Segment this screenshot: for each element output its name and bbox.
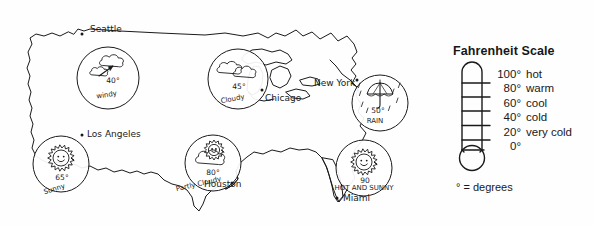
city-marker-houston[interactable]: 80°Partly CloudyHouston: [175, 135, 241, 193]
city-label: Miami: [343, 193, 370, 203]
city-label: Chicago: [265, 93, 302, 103]
city-temperature: 40°: [106, 76, 120, 85]
city-dot: [336, 197, 339, 200]
fahrenheit-legend: Fahrenheit Scale 100°hot80°warm60°cool40…: [440, 0, 594, 225]
city-dot: [81, 134, 84, 137]
city-temperature: 45°: [232, 82, 246, 91]
legend-temperature: 40°: [487, 110, 526, 124]
legend-description: very cold: [526, 125, 572, 139]
legend-temperature: 60°: [487, 96, 526, 110]
legend-row: 0°: [487, 139, 592, 153]
city-dot: [356, 79, 359, 82]
legend-description: cool: [526, 96, 547, 110]
city-label: Los Angeles: [87, 129, 141, 139]
city-marker-chicago[interactable]: 45°CloudyChicago: [208, 49, 302, 109]
city-condition: HOT AND SUNNY: [334, 184, 394, 192]
great-lakes-huron: [270, 66, 291, 88]
thermometer-tube: [462, 62, 482, 150]
legend-description: hot: [526, 67, 542, 81]
legend-degree-note: ° = degrees: [456, 181, 513, 193]
city-marker-seattle[interactable]: 40°windySeattle: [77, 24, 139, 109]
city-label: Seattle: [90, 24, 122, 34]
city-marker-new-york[interactable]: 50°RAINNew York: [314, 75, 408, 131]
city-marker-los-angeles[interactable]: 65°SunnyLos Angeles: [33, 129, 141, 196]
city-marker-miami[interactable]: 90HOT AND SUNNYMiami: [334, 140, 394, 203]
legend-row: 80°warm: [487, 81, 592, 95]
map-drawing: 40°windySeattle45°CloudyChicago50°RAINNe…: [0, 0, 440, 225]
thermometer-bulb: [460, 146, 485, 171]
city-condition: RAIN: [367, 117, 384, 125]
city-dot: [81, 33, 84, 36]
city-temperature: 65°: [55, 173, 69, 182]
city-label: New York: [314, 78, 356, 88]
legend-row: 40°cold: [487, 110, 592, 124]
legend-temperature: 80°: [487, 81, 526, 95]
legend-description: warm: [526, 81, 554, 95]
legend-temperature: 0°: [487, 139, 526, 153]
legend-temperature: 20°: [487, 125, 526, 139]
city-temperature: 50°: [371, 106, 385, 115]
legend-row: 100°hot: [487, 67, 592, 81]
weather-map-figure: 40°windySeattle45°CloudyChicago50°RAINNe…: [0, 0, 594, 225]
city-layer: 40°windySeattle45°CloudyChicago50°RAINNe…: [33, 24, 408, 203]
legend-description: cold: [526, 110, 547, 124]
legend-row-list: 100°hot80°warm60°cool40°cold20°very cold…: [487, 67, 592, 153]
us-weather-map: 40°windySeattle45°CloudyChicago50°RAINNe…: [0, 0, 440, 225]
legend-temperature: 100°: [487, 67, 526, 81]
legend-row: 20°very cold: [487, 125, 592, 139]
thermometer-neck: [462, 150, 482, 152]
city-label: Houston: [204, 179, 241, 189]
legend-title: Fahrenheit Scale: [453, 44, 555, 58]
legend-row: 60°cool: [487, 96, 592, 110]
city-dot: [261, 89, 264, 92]
